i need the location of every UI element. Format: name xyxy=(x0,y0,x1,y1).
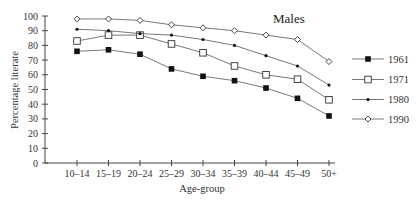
open-square-marker xyxy=(200,49,207,56)
open-diamond-marker xyxy=(137,17,143,23)
y-tick-label: 20 xyxy=(28,128,38,139)
legend-item-1980: 1980 xyxy=(352,94,409,105)
dot-marker xyxy=(107,29,110,32)
open-diamond-marker xyxy=(232,28,238,34)
x-tick-label: 25–29 xyxy=(159,168,184,179)
dot-marker xyxy=(138,32,141,35)
y-tick-label: 80 xyxy=(28,40,38,51)
x-tick-label: 45–49 xyxy=(285,168,310,179)
series-line xyxy=(77,50,329,116)
legend-item-1961: 1961 xyxy=(352,54,409,65)
x-tick-label: 35–39 xyxy=(222,168,247,179)
x-tick-label: 30–34 xyxy=(191,168,216,179)
filled-square-marker xyxy=(365,56,371,62)
y-axis-label: Percentage literate xyxy=(9,51,20,129)
axes: 010203040506070809010010–1415–1920–2425–… xyxy=(23,11,337,180)
line-chart: 010203040506070809010010–1415–1920–2425–… xyxy=(0,0,419,204)
open-square-marker xyxy=(365,76,372,83)
dot-marker xyxy=(327,83,330,86)
legend: 1961197119801990 xyxy=(352,54,409,125)
series-line xyxy=(77,35,329,100)
open-square-marker xyxy=(294,76,301,83)
y-tick-label: 60 xyxy=(28,69,38,80)
filled-square-marker xyxy=(200,73,206,79)
series-group xyxy=(74,16,333,119)
filled-square-marker xyxy=(74,48,80,54)
x-tick-label: 10–14 xyxy=(65,168,90,179)
dot-marker xyxy=(201,38,204,41)
filled-square-marker xyxy=(295,96,301,102)
legend-label: 1961 xyxy=(388,54,409,65)
x-tick-label: 15–19 xyxy=(96,168,121,179)
y-tick-label: 50 xyxy=(28,84,38,95)
filled-square-marker xyxy=(106,47,112,53)
y-tick-label: 0 xyxy=(33,158,38,169)
dot-marker xyxy=(296,64,299,67)
y-tick-label: 70 xyxy=(28,55,38,66)
legend-item-1971: 1971 xyxy=(352,74,409,85)
y-tick-label: 40 xyxy=(28,99,38,110)
y-tick-label: 100 xyxy=(23,11,38,22)
open-square-marker xyxy=(263,72,270,79)
open-square-marker xyxy=(105,32,112,39)
legend-label: 1971 xyxy=(388,74,409,85)
legend-label: 1990 xyxy=(388,114,409,125)
dot-marker xyxy=(170,34,173,37)
open-square-marker xyxy=(74,38,81,45)
open-diamond-marker xyxy=(200,25,206,31)
series-1971 xyxy=(74,32,333,103)
filled-square-marker xyxy=(137,51,143,57)
open-square-marker xyxy=(231,63,238,70)
dot-marker xyxy=(264,54,267,57)
open-diamond-marker xyxy=(106,16,112,22)
series-1961 xyxy=(74,47,332,119)
filled-square-marker xyxy=(263,85,269,91)
open-diamond-marker xyxy=(74,16,80,22)
open-diamond-marker xyxy=(263,32,269,38)
x-tick-label: 40–44 xyxy=(254,168,279,179)
y-tick-label: 10 xyxy=(28,143,38,154)
dot-marker xyxy=(75,28,78,31)
filled-square-marker xyxy=(326,113,332,119)
open-diamond-marker xyxy=(169,22,175,28)
open-diamond-marker xyxy=(295,37,301,43)
dot-marker xyxy=(366,98,369,101)
y-tick-label: 30 xyxy=(28,113,38,124)
open-square-marker xyxy=(168,41,175,48)
filled-square-marker xyxy=(169,66,175,72)
chart-title: Males xyxy=(273,11,305,26)
y-tick-label: 90 xyxy=(28,25,38,36)
legend-item-1990: 1990 xyxy=(352,114,409,125)
open-diamond-marker xyxy=(365,116,371,122)
legend-label: 1980 xyxy=(388,94,409,105)
x-tick-label: 20–24 xyxy=(128,168,153,179)
filled-square-marker xyxy=(232,78,238,84)
open-diamond-marker xyxy=(326,59,332,65)
x-tick-label: 50+ xyxy=(321,168,337,179)
open-square-marker xyxy=(326,96,333,103)
dot-marker xyxy=(233,44,236,47)
x-axis-label: Age-group xyxy=(179,183,225,194)
